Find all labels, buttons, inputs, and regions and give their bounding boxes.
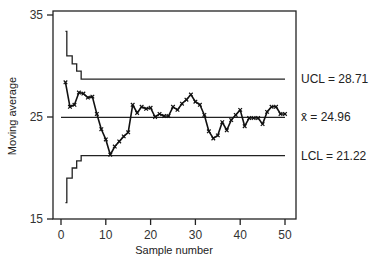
series-line xyxy=(65,82,285,154)
ucl-line xyxy=(65,31,285,79)
x-marker xyxy=(185,98,189,102)
data-series xyxy=(64,81,287,157)
plot-frame xyxy=(53,11,296,219)
x-tick-label: 50 xyxy=(278,228,292,242)
lcl-label: LCL = 21.22 xyxy=(301,149,367,163)
y-axis-ticks: 152535 xyxy=(30,8,53,226)
lcl-line xyxy=(65,156,285,203)
y-tick-label: 35 xyxy=(30,8,44,22)
control-chart: 152535 01020304050 Moving average Sample… xyxy=(0,0,372,267)
x-tick-label: 20 xyxy=(144,228,158,242)
y-tick-label: 25 xyxy=(30,110,44,124)
x-tick-label: 0 xyxy=(58,228,65,242)
x-marker xyxy=(117,140,121,144)
y-axis-label: Moving average xyxy=(6,77,18,155)
x-tick-label: 40 xyxy=(234,228,248,242)
x-axis-label: Sample number xyxy=(135,244,213,256)
control-limit-labels: UCL = 28.71x̄ = 24.96LCL = 21.22 xyxy=(301,72,369,162)
control-limits xyxy=(61,31,285,202)
x-tick-label: 30 xyxy=(189,228,203,242)
center-label: x̄ = 24.96 xyxy=(301,110,351,124)
x-marker xyxy=(234,113,238,117)
x-axis-ticks: 01020304050 xyxy=(58,219,292,242)
ucl-label: UCL = 28.71 xyxy=(301,72,369,86)
y-tick-label: 15 xyxy=(30,212,44,226)
x-marker xyxy=(122,135,126,139)
x-tick-label: 10 xyxy=(99,228,113,242)
